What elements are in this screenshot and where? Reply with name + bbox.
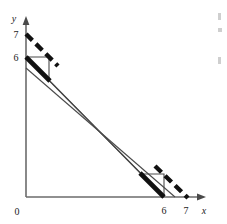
x-tick-label-6: 6 [162, 205, 167, 216]
band-offset-line [26, 68, 175, 197]
origin-label: 0 [15, 206, 20, 217]
x-tick-label-7: 7 [184, 205, 189, 216]
thick-segment-upper-left [26, 57, 50, 81]
axes-group [23, 16, 206, 200]
page-edge-fragment-1 [218, 13, 221, 20]
y-tick-label-6: 6 [14, 52, 19, 63]
figure-container: y x 0 7 6 6 7 [0, 0, 227, 224]
page-edge-fragment-3 [218, 57, 221, 64]
y-axis-arrowhead [23, 16, 30, 25]
y-axis-label: y [11, 13, 17, 24]
dashed-extensions-group [26, 34, 188, 198]
x-axis-label: x [201, 205, 207, 216]
page-edge-fragment-2 [218, 28, 222, 32]
y-tick-label-7: 7 [14, 29, 19, 40]
coordinate-plot: y x 0 7 6 6 7 [0, 0, 227, 224]
x-axis-arrowhead [197, 194, 206, 201]
